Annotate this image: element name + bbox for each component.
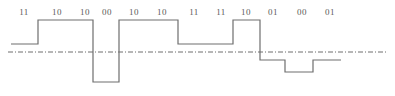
waveform-plot [0,0,395,96]
signal-trace [11,20,341,82]
signal-waveform-figure: 111010001010111110010001 [0,0,395,96]
